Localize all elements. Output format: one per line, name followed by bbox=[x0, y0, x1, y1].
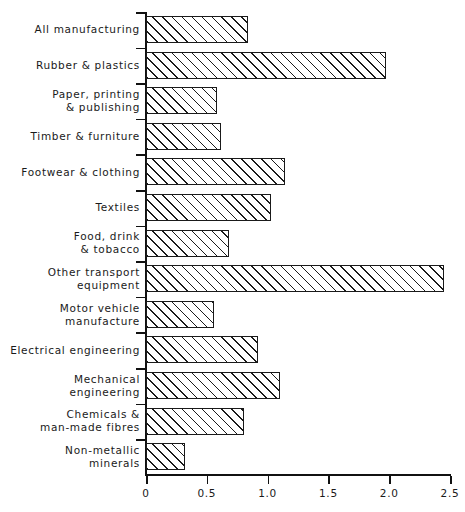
bar bbox=[146, 336, 258, 363]
bar bbox=[146, 87, 217, 114]
category-label-line: All manufacturing bbox=[35, 23, 140, 36]
bar bbox=[146, 52, 386, 79]
category-label: Non-metallicminerals bbox=[0, 439, 140, 475]
x-axis-tick-label: 1.5 bbox=[298, 487, 358, 499]
bar-row: Mechanicalengineering bbox=[0, 368, 465, 404]
category-label-line: Footwear & clothing bbox=[21, 166, 140, 179]
y-axis-tick bbox=[136, 190, 145, 192]
bar-row: All manufacturing bbox=[0, 12, 465, 48]
category-label: Rubber & plastics bbox=[0, 48, 140, 84]
bar bbox=[146, 123, 221, 150]
bar bbox=[146, 372, 280, 399]
x-axis-tick bbox=[268, 476, 270, 484]
bar-row: Electrical engineering bbox=[0, 332, 465, 368]
y-axis-tick bbox=[136, 439, 145, 441]
bar-row: Paper, printing& publishing bbox=[0, 83, 465, 119]
category-label: Textiles bbox=[0, 190, 140, 226]
bar-rows: All manufacturingRubber & plasticsPaper,… bbox=[0, 0, 465, 463]
category-label: All manufacturing bbox=[0, 12, 140, 48]
y-axis-tick bbox=[136, 48, 145, 50]
y-axis-tick bbox=[136, 368, 145, 370]
bar-chart: All manufacturingRubber & plasticsPaper,… bbox=[0, 0, 465, 512]
bar-row: Timber & furniture bbox=[0, 119, 465, 155]
category-label-line: Non-metallic bbox=[65, 444, 140, 457]
category-label-line: equipment bbox=[77, 279, 140, 292]
x-axis-tick-label: 1.0 bbox=[238, 487, 298, 499]
bar bbox=[146, 194, 271, 221]
bar-row: Non-metallicminerals bbox=[0, 439, 465, 475]
bar-row: Other transportequipment bbox=[0, 261, 465, 297]
bar-row: Food, drink& tobacco bbox=[0, 226, 465, 262]
bar-row: Footwear & clothing bbox=[0, 154, 465, 190]
bar bbox=[146, 16, 248, 43]
bar bbox=[146, 301, 214, 328]
category-label: Electrical engineering bbox=[0, 332, 140, 368]
category-label-line: Food, drink bbox=[74, 230, 140, 243]
x-axis-tick-label: 2.0 bbox=[359, 487, 419, 499]
y-axis-tick bbox=[136, 332, 145, 334]
category-label: Paper, printing& publishing bbox=[0, 83, 140, 119]
category-label-line: Chemicals & bbox=[67, 408, 140, 421]
x-axis-tick bbox=[328, 476, 330, 484]
category-label: Mechanicalengineering bbox=[0, 368, 140, 404]
category-label-line: engineering bbox=[69, 386, 140, 399]
category-label-line: Electrical engineering bbox=[10, 344, 140, 357]
category-label: Other transportequipment bbox=[0, 261, 140, 297]
category-label: Food, drink& tobacco bbox=[0, 226, 140, 262]
category-label-line: & tobacco bbox=[81, 243, 140, 256]
category-label-line: Mechanical bbox=[74, 373, 140, 386]
y-axis-tick bbox=[136, 297, 145, 299]
y-axis-tick bbox=[136, 119, 145, 121]
bar bbox=[146, 265, 444, 292]
category-label: Motor vehiclemanufacture bbox=[0, 297, 140, 333]
bar bbox=[146, 443, 185, 470]
x-axis-tick-label: 0 bbox=[116, 487, 176, 499]
x-axis-tick bbox=[207, 476, 209, 484]
x-axis-tick bbox=[389, 476, 391, 484]
bar-row: Chemicals &man-made fibres bbox=[0, 404, 465, 440]
bar bbox=[146, 408, 244, 435]
category-label-line: man-made fibres bbox=[40, 421, 140, 434]
y-axis-tick bbox=[136, 83, 145, 85]
category-label: Footwear & clothing bbox=[0, 154, 140, 190]
y-axis-tick bbox=[136, 12, 145, 14]
category-label-line: Textiles bbox=[95, 201, 140, 214]
bar bbox=[146, 158, 285, 185]
bar bbox=[146, 230, 229, 257]
category-label-line: Motor vehicle bbox=[60, 302, 140, 315]
category-label-line: & publishing bbox=[66, 101, 140, 114]
bar-row: Motor vehiclemanufacture bbox=[0, 297, 465, 333]
category-label-line: Rubber & plastics bbox=[36, 59, 140, 72]
category-label: Timber & furniture bbox=[0, 119, 140, 155]
category-label: Chemicals &man-made fibres bbox=[0, 404, 140, 440]
y-axis-tick bbox=[136, 261, 145, 263]
x-axis-tick-label: 2.5 bbox=[420, 487, 465, 499]
y-axis-tick bbox=[136, 226, 145, 228]
x-axis-tick bbox=[146, 476, 148, 484]
category-label-line: manufacture bbox=[65, 315, 140, 328]
category-label-line: Other transport bbox=[48, 266, 140, 279]
category-label-line: minerals bbox=[89, 457, 140, 470]
y-axis-tick bbox=[136, 154, 145, 156]
x-axis-tick-label: 0.5 bbox=[177, 487, 237, 499]
x-axis-tick bbox=[450, 476, 452, 484]
category-label-line: Timber & furniture bbox=[30, 130, 140, 143]
bar-row: Textiles bbox=[0, 190, 465, 226]
y-axis-tick bbox=[136, 404, 145, 406]
category-label-line: Paper, printing bbox=[52, 88, 140, 101]
bar-row: Rubber & plastics bbox=[0, 48, 465, 84]
